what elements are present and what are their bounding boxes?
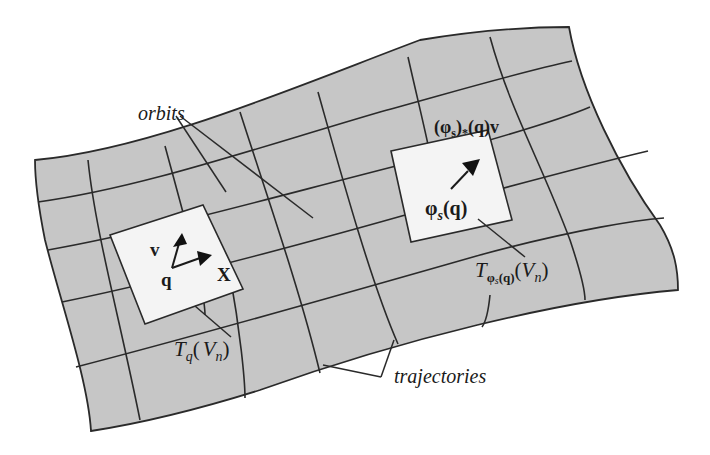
- q-label: q: [161, 269, 172, 290]
- X-label: X: [217, 264, 231, 285]
- orbits-label: orbits: [138, 102, 185, 124]
- trajectories-label: trajectories: [394, 365, 486, 388]
- manifold-diagram: orbits trajectories v X q Tq(Vn) φs(q) (…: [0, 0, 710, 455]
- v-label: v: [150, 239, 160, 260]
